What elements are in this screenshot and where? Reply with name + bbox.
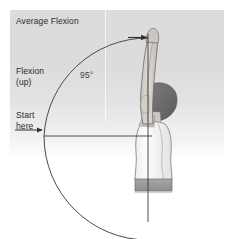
angle-value-label: 95° <box>80 70 93 80</box>
hem-shadow <box>135 191 172 193</box>
motion-label: Flexion (up) <box>16 66 44 87</box>
waistband-band <box>135 179 172 191</box>
title-label: Average Flexion <box>16 16 79 27</box>
diagram-canvas <box>0 0 234 239</box>
start-label: Start here <box>16 110 34 131</box>
measurement-geometry <box>15 34 152 239</box>
flexion-diagram: Average Flexion Flexion (up) Start here … <box>0 0 234 239</box>
torso-shape <box>135 122 172 180</box>
motion-arc <box>44 38 148 239</box>
human-figure <box>135 28 177 193</box>
